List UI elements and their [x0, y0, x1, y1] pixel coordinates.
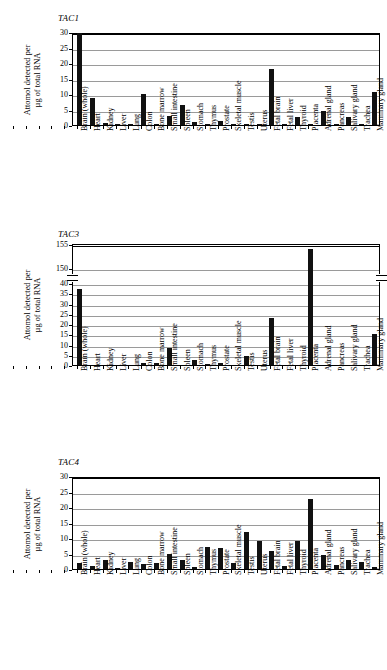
- x-axis-tick: [308, 366, 309, 369]
- y-axis-tick: [69, 80, 72, 81]
- x-axis-label: Placenta: [312, 344, 320, 371]
- x-axis-tick: [244, 570, 245, 573]
- y-axis-label-line2: µg of total RNA: [33, 20, 43, 140]
- y-axis-tick: [69, 33, 72, 34]
- x-axis-label: Kidney: [107, 347, 115, 371]
- x-axis-tick: [26, 570, 27, 573]
- y-axis-label-line2: µg of total RNA: [33, 464, 43, 584]
- x-axis-tick: [13, 366, 14, 369]
- y-axis-tick-label: 15: [46, 331, 68, 339]
- y-axis-tick: [69, 126, 72, 127]
- y-axis-tick: [69, 111, 72, 112]
- x-axis-tick: [218, 126, 219, 129]
- y-axis-tick: [69, 95, 72, 96]
- x-axis-tick: [90, 366, 91, 369]
- x-axis-label: Liver: [120, 558, 128, 575]
- x-axis-tick: [128, 366, 129, 369]
- x-axis-tick: [244, 126, 245, 129]
- x-axis-tick: [141, 366, 142, 369]
- gridline: [73, 81, 379, 82]
- gridline: [73, 525, 379, 526]
- y-axis-tick: [69, 508, 72, 509]
- x-axis-label: Skeletal muscle: [235, 321, 243, 371]
- gridline: [73, 306, 379, 307]
- x-axis-label: Thyroid: [300, 105, 308, 131]
- x-axis-tick: [128, 126, 129, 129]
- x-axis-label: Placenta: [312, 548, 320, 575]
- y-axis-tick-label: 25: [46, 489, 68, 497]
- x-axis-label: Fetal brain: [274, 97, 282, 131]
- x-axis-tick: [64, 366, 65, 369]
- x-axis-tick: [103, 366, 104, 369]
- y-axis-label-line2: µg of total RNA: [33, 245, 43, 365]
- y-axis-tick-label: 35: [46, 290, 68, 298]
- y-axis-tick-label: 40: [46, 280, 68, 288]
- x-axis-tick: [231, 366, 232, 369]
- x-axis-tick: [193, 570, 194, 573]
- x-axis-tick: [295, 570, 296, 573]
- x-axis-label: Mammary gland: [377, 318, 385, 371]
- x-axis-label: Fetal brain: [274, 337, 282, 371]
- x-axis-tick: [39, 570, 40, 573]
- y-axis-label-line1: Attomol detected per: [23, 20, 33, 140]
- gridline: [73, 478, 379, 479]
- x-axis-tick: [13, 570, 14, 573]
- y-axis-tick-label: 20: [46, 60, 68, 68]
- x-axis-label: Fetal liver: [287, 338, 295, 371]
- y-axis-tick-label: 30: [46, 29, 68, 37]
- y-axis-tick-label: 10: [46, 535, 68, 543]
- x-axis-tick: [205, 366, 206, 369]
- x-axis-tick: [116, 126, 117, 129]
- x-axis-tick: [90, 570, 91, 573]
- y-axis-tick: [69, 346, 72, 347]
- x-axis-label: Pancreas: [338, 547, 346, 575]
- y-axis-tick: [69, 305, 72, 306]
- y-axis-tick: [69, 366, 72, 367]
- x-axis-label: Thymus: [210, 105, 218, 131]
- x-axis-label: Heart: [94, 353, 102, 371]
- x-axis-tick: [218, 570, 219, 573]
- x-axis-label: Pancreas: [338, 343, 346, 371]
- axis-break-mark-left: [67, 274, 78, 283]
- x-axis-label: Skeletal muscle: [235, 525, 243, 575]
- gridline: [73, 336, 379, 337]
- x-axis-label: Colon: [146, 555, 154, 575]
- x-axis-tick: [205, 570, 206, 573]
- gridline: [73, 285, 379, 286]
- x-axis-label: Adrenal gland: [325, 529, 333, 575]
- x-axis-label: Placenta: [312, 104, 320, 131]
- gridline: [73, 295, 379, 296]
- x-axis-label: Spleen: [184, 553, 192, 575]
- gridline: [73, 509, 379, 510]
- x-axis-tick: [193, 126, 194, 129]
- y-axis-tick-label: 5: [46, 551, 68, 559]
- x-axis-label: Fetal liver: [287, 542, 295, 575]
- x-axis-tick: [116, 570, 117, 573]
- x-axis-label: Stomach: [197, 103, 205, 131]
- x-axis-tick: [154, 570, 155, 573]
- x-axis-label: Liver: [120, 354, 128, 371]
- x-axis-label: Spleen: [184, 349, 192, 371]
- y-axis-tick-label: 30: [46, 473, 68, 481]
- x-axis-label: Lung: [133, 114, 141, 131]
- x-axis-label: Heart: [94, 557, 102, 575]
- y-axis-tick-label: 10: [46, 91, 68, 99]
- x-axis-tick: [103, 570, 104, 573]
- x-axis-label: Salivary gland: [351, 85, 359, 131]
- y-axis-tick-label: 5: [46, 107, 68, 115]
- x-axis-tick: [218, 366, 219, 369]
- x-axis-tick: [257, 570, 258, 573]
- y-axis-tick: [69, 335, 72, 336]
- x-axis-label: Adrenal gland: [325, 325, 333, 371]
- x-axis-label: Small intestine: [171, 527, 179, 575]
- x-axis-label: Fetal liver: [287, 98, 295, 131]
- x-axis-tick: [64, 126, 65, 129]
- x-axis-label: Spleen: [184, 109, 192, 131]
- x-axis-label: Mammary gland: [377, 522, 385, 575]
- x-axis-label: Uterus: [261, 350, 269, 371]
- y-axis-tick: [69, 555, 72, 556]
- y-axis-tick: [69, 284, 72, 285]
- gridline: [73, 540, 379, 541]
- x-axis-label: Stomach: [197, 343, 205, 371]
- y-axis-tick-label: 25: [46, 45, 68, 53]
